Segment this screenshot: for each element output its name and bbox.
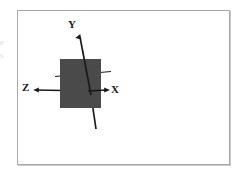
shaded-plane <box>60 59 101 108</box>
coordinate-axes-diagram <box>18 11 231 166</box>
margin-ink-bleed: e s <box>0 36 10 64</box>
margin-bleed-line-2: s <box>0 49 10 62</box>
y-axis-label: Y <box>68 19 76 30</box>
figure-frame: Y X Z <box>17 10 230 165</box>
z-axis-label: Z <box>22 82 29 93</box>
x-axis-label: X <box>111 84 119 95</box>
margin-bleed-line-1: e <box>0 36 10 49</box>
